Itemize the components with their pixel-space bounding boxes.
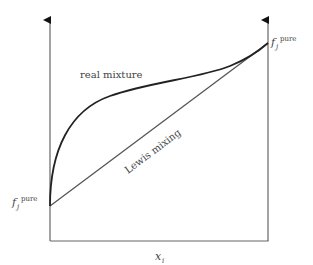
lewis-mixing-line <box>50 43 268 206</box>
x-axis-label: x i <box>155 250 164 265</box>
svg-text:x: x <box>155 250 162 263</box>
real-mixture-label: real mixture <box>80 69 143 80</box>
svg-text:i: i <box>162 257 164 265</box>
lewis-mixing-label: Lewis mixing <box>123 126 184 175</box>
svg-text:pure: pure <box>21 195 37 203</box>
svg-text:pure: pure <box>280 35 296 43</box>
left-fugacity-label: f j pure <box>11 195 37 211</box>
fugacity-diagram: real mixture Lewis mixing f j pure f j p… <box>0 0 313 265</box>
right-fugacity-label: f j pure <box>270 35 296 51</box>
